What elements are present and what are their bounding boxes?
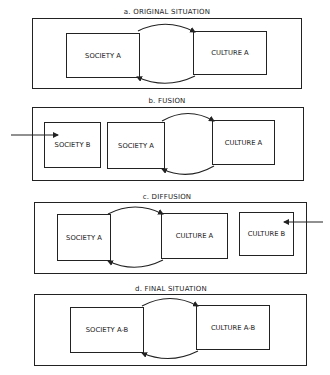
arc-arrow-icon <box>142 351 198 359</box>
connector-arrows <box>0 0 330 375</box>
arc-arrow-icon <box>108 207 163 214</box>
arc-arrow-icon <box>137 76 195 83</box>
arc-arrow-icon <box>142 299 198 307</box>
arc-arrow-icon <box>162 114 214 122</box>
arc-arrow-icon <box>138 24 195 32</box>
arc-arrow-icon <box>162 166 214 174</box>
arc-arrow-icon <box>108 260 163 267</box>
